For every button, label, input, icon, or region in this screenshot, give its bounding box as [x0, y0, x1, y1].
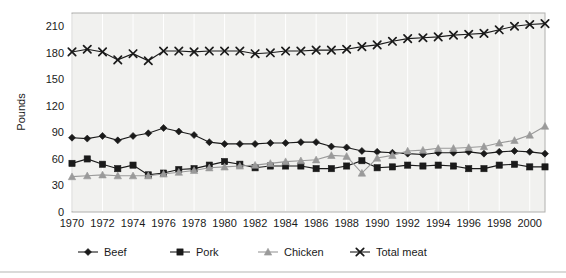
x-tick-label: 1980 [212, 217, 236, 229]
y-tick-label: 60 [52, 153, 64, 165]
x-tick-label: 1986 [304, 217, 328, 229]
y-axis-tick-labels: 0306090120150180210 [46, 20, 64, 218]
x-axis-tick-labels: 1970197219741976197819801982198419861988… [60, 217, 542, 229]
marker-diamond [85, 249, 92, 256]
y-tick-label: 30 [52, 179, 64, 191]
marker-square [466, 166, 472, 172]
legend-item-total-meat[interactable]: Total meat [350, 246, 427, 258]
marker-square [374, 165, 380, 171]
marker-square [389, 164, 395, 170]
y-tick-label: 90 [52, 126, 64, 138]
marker-square [344, 163, 350, 169]
legend-label: Chicken [284, 246, 324, 258]
marker-square [435, 162, 441, 168]
legend-item-chicken[interactable]: Chicken [258, 246, 324, 258]
line-chart: 0306090120150180210 19701972197419761978… [0, 0, 566, 278]
x-tick-label: 1974 [121, 217, 145, 229]
marker-square [405, 162, 411, 168]
marker-square [511, 161, 517, 167]
x-tick-label: 1978 [182, 217, 206, 229]
legend-item-beef[interactable]: Beef [78, 246, 128, 258]
marker-square [420, 163, 426, 169]
y-tick-label: 210 [46, 20, 64, 32]
x-tick-label: 1976 [151, 217, 175, 229]
x-tick-label: 1970 [60, 217, 84, 229]
marker-square [69, 160, 75, 166]
marker-square [450, 163, 456, 169]
marker-square [313, 166, 319, 172]
marker-square [99, 161, 105, 167]
plot-area-background [72, 13, 545, 212]
marker-square [359, 158, 365, 164]
x-tick-label: 1992 [395, 217, 419, 229]
x-tick-label: 1984 [273, 217, 297, 229]
marker-square [527, 164, 533, 170]
marker-square [496, 162, 502, 168]
legend-label: Pork [196, 246, 219, 258]
marker-square [542, 164, 548, 170]
y-tick-label: 180 [46, 47, 64, 59]
y-tick-label: 120 [46, 100, 64, 112]
x-tick-label: 1996 [456, 217, 480, 229]
legend-item-pork[interactable]: Pork [170, 246, 219, 258]
marker-square [481, 166, 487, 172]
legend-label: Beef [104, 246, 128, 258]
x-tick-label: 1990 [365, 217, 389, 229]
x-tick-label: 1998 [487, 217, 511, 229]
x-tick-label: 1988 [334, 217, 358, 229]
legend-label: Total meat [376, 246, 427, 258]
marker-square [177, 249, 183, 255]
marker-square [328, 166, 334, 172]
chart-legend: BeefPorkChickenTotal meat [78, 246, 427, 258]
x-tick-label: 2000 [517, 217, 541, 229]
x-tick-label: 1994 [426, 217, 450, 229]
chart-figure: 0306090120150180210 19701972197419761978… [0, 0, 566, 278]
y-tick-label: 150 [46, 73, 64, 85]
x-tick-label: 1972 [90, 217, 114, 229]
x-tick-label: 1982 [243, 217, 267, 229]
marker-square [130, 162, 136, 168]
y-axis-title: Pounds [15, 93, 27, 131]
marker-square [84, 156, 90, 162]
marker-square [115, 166, 121, 172]
